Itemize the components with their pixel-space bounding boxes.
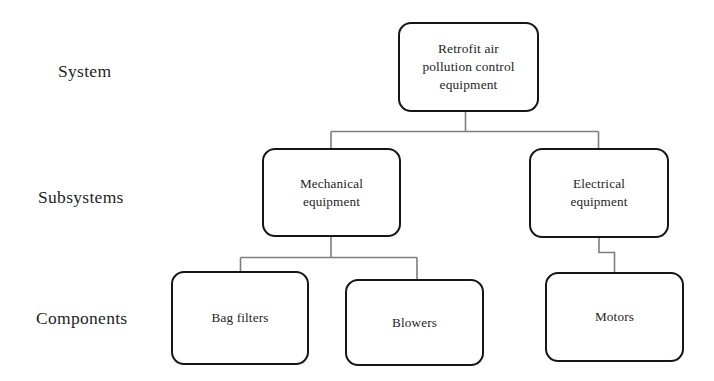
tier-label-components: Components bbox=[36, 310, 127, 328]
edge-electrical-to-motors bbox=[599, 238, 615, 272]
node-bag-filters[interactable]: Bag filters bbox=[171, 271, 309, 365]
node-label: Bag filters bbox=[212, 309, 269, 327]
node-label: Motors bbox=[595, 308, 634, 326]
node-blowers[interactable]: Blowers bbox=[345, 279, 484, 366]
node-retrofit-air-pollution-control-equipment[interactable]: Retrofit air pollution control equipment bbox=[398, 22, 539, 112]
node-mechanical-equipment[interactable]: Mechanical equipment bbox=[262, 148, 401, 237]
tier-label-subsystems: Subsystems bbox=[38, 189, 124, 207]
system-hierarchy-diagram: System Subsystems Components Retrofit ai… bbox=[0, 0, 714, 381]
node-label: Mechanical equipment bbox=[300, 175, 363, 210]
node-label: Retrofit air pollution control equipment bbox=[422, 40, 514, 94]
node-label: Electrical equipment bbox=[570, 175, 627, 210]
node-motors[interactable]: Motors bbox=[545, 272, 684, 362]
node-electrical-equipment[interactable]: Electrical equipment bbox=[529, 148, 669, 238]
node-label: Blowers bbox=[392, 314, 437, 332]
edge-root-to-subsystems bbox=[331, 112, 599, 148]
tier-label-system: System bbox=[58, 63, 111, 81]
